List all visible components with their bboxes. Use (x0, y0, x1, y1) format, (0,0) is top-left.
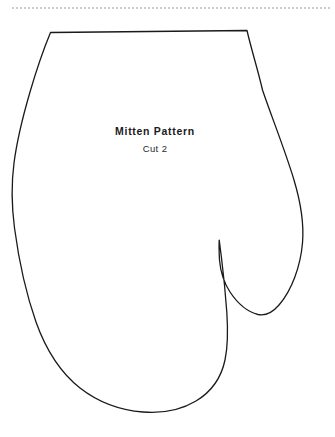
mitten-outline-icon (12, 31, 303, 413)
mitten-pattern-canvas (0, 0, 335, 437)
pattern-page: Mitten Pattern Cut 2 (0, 0, 335, 437)
